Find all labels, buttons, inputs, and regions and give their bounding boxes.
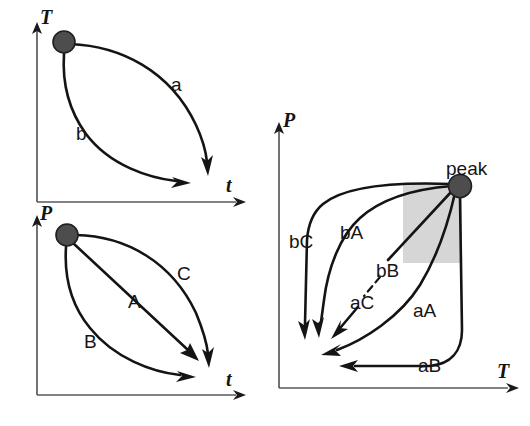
t-panel-label-a: a [171,74,182,95]
t-panel-start-node [53,31,75,53]
t-panel-x-axis-label: t [226,174,233,196]
t-panel-path-b [64,54,176,181]
p-panel-start-node [56,224,78,246]
p-panel-label-B: B [84,331,97,352]
t-panel-path-b-arrowhead [171,177,191,188]
pT-panel-label-aB: aB [418,355,441,376]
t-panel-path-a [70,44,207,162]
pT-panel-label-bB: bB [376,260,399,281]
diagram-svg: T t a b P t [0,0,530,426]
p-panel-y-axis-label: P [39,202,53,224]
pT-panel-label-aA: aA [413,300,437,321]
p-panel-path-B-arrowhead [176,371,196,382]
p-panel-label-C: C [177,263,191,284]
t-panel-label-b: b [76,123,87,144]
pT-panel-x-axis-label: T [497,360,510,382]
pT-panel-peak-label: peak [446,158,488,179]
p-panel-label-A: A [128,291,141,312]
pT-panel-label-bA: bA [340,222,364,243]
panel-pressure-time: P t C A B [32,202,246,400]
p-panel-x-axis-label: t [226,368,233,390]
pT-panel-y-axis-label: P [282,109,296,131]
pT-panel-label-aC: aC [350,292,374,313]
panel-temperature-time: T t a b [32,6,246,207]
pT-panel-label-bC: bC [289,231,313,252]
p-panel-path-B [66,247,180,375]
t-panel-y-axis-label: T [40,6,53,28]
pT-panel-path-bA-arrowhead [312,317,324,338]
figure-container: T t a b P t [0,0,530,426]
panel-pressure-temperature: P T peak bC bA bB [274,109,519,393]
